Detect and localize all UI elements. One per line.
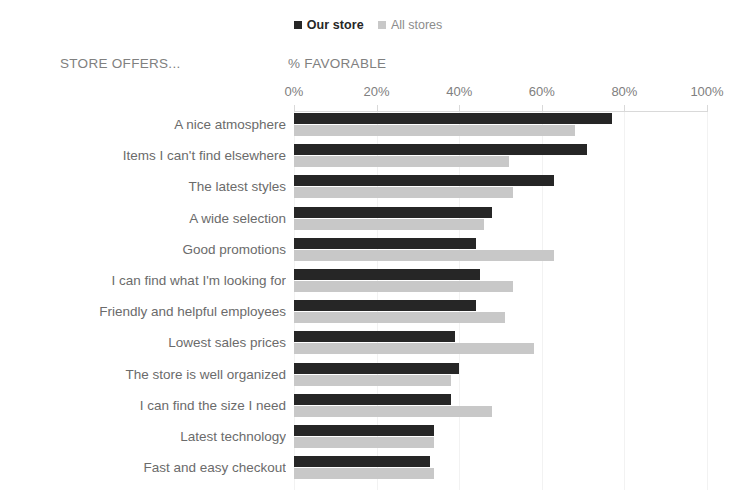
bar-our-store[interactable] [294, 425, 434, 436]
bar-all-stores[interactable] [294, 437, 434, 448]
chart-row: The latest styles [294, 174, 707, 200]
bar-our-store[interactable] [294, 363, 459, 374]
bar-our-store[interactable] [294, 394, 451, 405]
bar-our-store[interactable] [294, 300, 476, 311]
chart-row: Fast and easy checkout [294, 455, 707, 481]
chart-row: I can find what I'm looking for [294, 268, 707, 294]
bar-all-stores[interactable] [294, 312, 505, 323]
legend-label-all-stores: All stores [391, 18, 442, 32]
bar-our-store[interactable] [294, 144, 587, 155]
x-tick-mark [707, 105, 708, 111]
bar-all-stores[interactable] [294, 343, 534, 354]
category-label: I can find the size I need [26, 393, 286, 419]
chart-row: Good promotions [294, 237, 707, 263]
category-label: The store is well organized [26, 362, 286, 388]
bar-all-stores[interactable] [294, 187, 513, 198]
chart-legend: Our store All stores [0, 18, 736, 32]
cropped-title-area [0, 0, 736, 8]
category-label: The latest styles [26, 174, 286, 200]
bar-chart: Our store All stores STORE OFFERS... % F… [0, 0, 736, 503]
legend-label-our-store: Our store [307, 18, 364, 32]
category-label: Lowest sales prices [26, 330, 286, 356]
bar-all-stores[interactable] [294, 281, 513, 292]
bar-our-store[interactable] [294, 238, 476, 249]
chart-row: A wide selection [294, 206, 707, 232]
x-tick-label: 20% [364, 84, 390, 99]
category-label: I can find what I'm looking for [26, 268, 286, 294]
chart-row: Friendly and helpful employees [294, 299, 707, 325]
category-label: Fast and easy checkout [26, 455, 286, 481]
chart-row: A nice atmosphere [294, 112, 707, 138]
legend-swatch-our-store [294, 21, 302, 29]
bar-all-stores[interactable] [294, 468, 434, 479]
bar-all-stores[interactable] [294, 125, 575, 136]
x-tick-mark [624, 105, 625, 111]
x-tick-mark [459, 105, 460, 111]
value-axis-title: % FAVORABLE [288, 56, 386, 71]
bar-our-store[interactable] [294, 269, 480, 280]
x-tick-label: 100% [690, 84, 723, 99]
bar-all-stores[interactable] [294, 406, 492, 417]
bar-all-stores[interactable] [294, 156, 509, 167]
chart-row: Items I can't find elsewhere [294, 143, 707, 169]
category-label: A nice atmosphere [26, 112, 286, 138]
bar-our-store[interactable] [294, 456, 430, 467]
chart-row: I can find the size I need [294, 393, 707, 419]
category-label: Latest technology [26, 424, 286, 450]
x-tick-label: 40% [446, 84, 472, 99]
category-axis-title: STORE OFFERS... [60, 56, 181, 71]
chart-row: Latest technology [294, 424, 707, 450]
gridline [707, 112, 708, 490]
bar-all-stores[interactable] [294, 219, 484, 230]
x-tick-mark [294, 105, 295, 111]
x-tick-label: 60% [529, 84, 555, 99]
category-label: Good promotions [26, 237, 286, 263]
bar-our-store[interactable] [294, 175, 554, 186]
x-tick-label: 80% [611, 84, 637, 99]
category-label: Items I can't find elsewhere [26, 143, 286, 169]
bar-all-stores[interactable] [294, 375, 451, 386]
bar-our-store[interactable] [294, 207, 492, 218]
chart-row: Lowest sales prices [294, 330, 707, 356]
x-axis-tick-labels: 0%20%40%60%80%100% [294, 84, 707, 100]
bar-our-store[interactable] [294, 113, 612, 124]
bar-our-store[interactable] [294, 331, 455, 342]
legend-item-our-store[interactable]: Our store [294, 18, 364, 32]
bar-all-stores[interactable] [294, 250, 554, 261]
x-tick-mark [377, 105, 378, 111]
x-tick-mark [542, 105, 543, 111]
category-label: Friendly and helpful employees [26, 299, 286, 325]
x-tick-label: 0% [285, 84, 304, 99]
chart-row: The store is well organized [294, 362, 707, 388]
legend-item-all-stores[interactable]: All stores [378, 18, 442, 32]
legend-swatch-all-stores [378, 21, 386, 29]
category-label: A wide selection [26, 206, 286, 232]
plot-area: A nice atmosphereItems I can't find else… [294, 112, 707, 490]
